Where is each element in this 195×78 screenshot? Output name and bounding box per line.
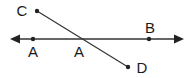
- point-A-left: [31, 37, 35, 41]
- geometry-diagram: A A B C D: [0, 0, 195, 78]
- label-A-intersection: A: [74, 43, 84, 60]
- point-D: [126, 65, 130, 69]
- label-B: B: [145, 19, 155, 36]
- label-D: D: [137, 59, 148, 76]
- right-arrowhead-icon: [174, 35, 184, 44]
- point-B: [147, 37, 151, 41]
- diagram-canvas: A A B C D: [0, 0, 195, 78]
- label-A-left: A: [28, 43, 38, 60]
- label-C: C: [17, 2, 28, 19]
- point-C: [35, 9, 39, 13]
- left-arrowhead-icon: [10, 35, 20, 44]
